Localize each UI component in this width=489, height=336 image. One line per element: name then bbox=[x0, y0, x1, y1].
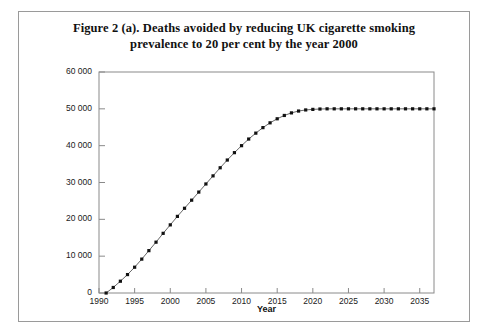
data-point-marker bbox=[204, 182, 207, 185]
data-point-marker bbox=[133, 266, 136, 269]
data-point-marker bbox=[404, 107, 407, 110]
data-point-marker bbox=[147, 249, 150, 252]
data-point-marker bbox=[283, 114, 286, 117]
data-point-marker bbox=[297, 109, 300, 112]
data-point-marker bbox=[347, 107, 350, 110]
data-point-marker bbox=[333, 107, 336, 110]
data-point-marker bbox=[126, 273, 129, 276]
data-point-marker bbox=[112, 286, 115, 289]
data-point-marker bbox=[354, 107, 357, 110]
data-point-marker bbox=[340, 107, 343, 110]
data-point-marker bbox=[318, 107, 321, 110]
y-tick-label: 10 000 bbox=[30, 250, 92, 260]
y-tick-label: 50 000 bbox=[30, 103, 92, 113]
data-point-marker bbox=[219, 166, 222, 169]
data-point-marker bbox=[176, 215, 179, 218]
data-point-marker bbox=[418, 107, 421, 110]
data-point-marker bbox=[411, 107, 414, 110]
data-point-marker bbox=[261, 126, 264, 129]
data-point-marker bbox=[304, 108, 307, 111]
y-tick-label: 60 000 bbox=[30, 66, 92, 76]
data-point-marker bbox=[183, 207, 186, 210]
data-point-marker bbox=[375, 107, 378, 110]
data-point-marker bbox=[226, 158, 229, 161]
data-point-marker bbox=[119, 280, 122, 283]
y-tick-label: 20 000 bbox=[30, 213, 92, 223]
y-tick-label: 40 000 bbox=[30, 140, 92, 150]
data-point-marker bbox=[397, 107, 400, 110]
data-point-marker bbox=[390, 107, 393, 110]
data-point-marker bbox=[290, 111, 293, 114]
data-point-marker bbox=[254, 132, 257, 135]
data-point-marker bbox=[233, 151, 236, 154]
data-point-marker bbox=[140, 258, 143, 261]
data-point-marker bbox=[383, 107, 386, 110]
data-point-marker bbox=[368, 107, 371, 110]
data-point-marker bbox=[169, 223, 172, 226]
data-point-marker bbox=[154, 241, 157, 244]
data-point-marker bbox=[325, 107, 328, 110]
data-point-marker bbox=[311, 108, 314, 111]
data-point-marker bbox=[240, 144, 243, 147]
data-point-marker bbox=[361, 107, 364, 110]
x-axis-title: Year bbox=[99, 304, 434, 314]
chart-plot bbox=[0, 0, 489, 336]
y-tick-label: 30 000 bbox=[30, 177, 92, 187]
data-point-marker bbox=[105, 291, 108, 294]
data-point-marker bbox=[425, 107, 428, 110]
data-point-marker bbox=[268, 121, 271, 124]
data-point-marker bbox=[247, 137, 250, 140]
data-point-marker bbox=[162, 232, 165, 235]
plot-frame bbox=[99, 72, 434, 293]
data-point-marker bbox=[190, 199, 193, 202]
data-point-marker bbox=[432, 107, 435, 110]
data-point-marker bbox=[197, 190, 200, 193]
data-point-marker bbox=[211, 174, 214, 177]
data-point-marker bbox=[276, 117, 279, 120]
